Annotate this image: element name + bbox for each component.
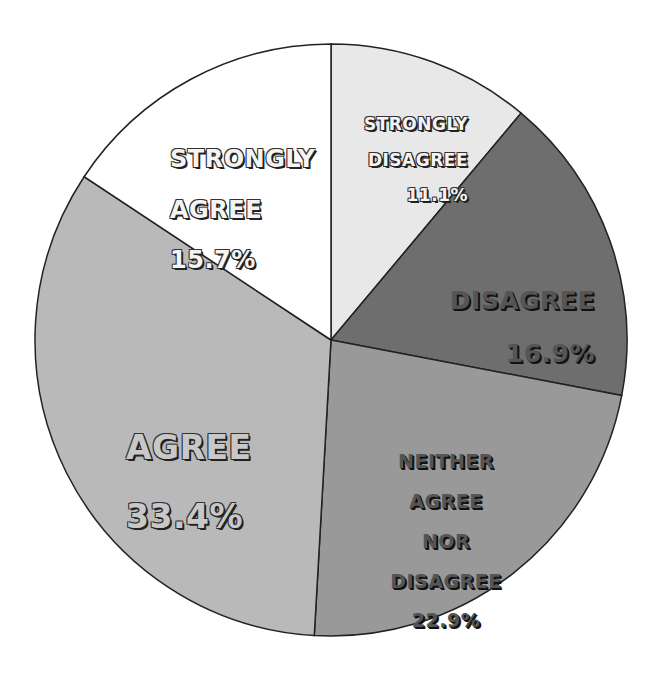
label-text: STRONGLY xyxy=(170,147,315,172)
label-text: DISAGREE xyxy=(346,152,468,170)
label-strongly-agree: STRONGLY AGREE 15.7% xyxy=(170,122,315,298)
label-percent: 16.9% xyxy=(440,341,595,367)
label-percent: 22.9% xyxy=(378,611,514,631)
label-text: NOR xyxy=(378,532,514,552)
label-agree: AGREE 33.4% xyxy=(126,396,252,569)
label-text: AGREE xyxy=(170,198,315,223)
label-percent: 11.1% xyxy=(346,187,468,205)
label-neither: NEITHER AGREE NOR DISAGREE 22.9% xyxy=(378,432,514,651)
label-text: STRONGLY xyxy=(346,116,468,134)
label-text: DISAGREE xyxy=(440,288,595,314)
label-percent: 33.4% xyxy=(126,500,252,535)
label-text: NEITHER xyxy=(378,452,514,472)
label-disagree: DISAGREE 16.9% xyxy=(440,262,595,393)
label-percent: 15.7% xyxy=(170,248,315,273)
label-strongly-disagree: STRONGLY DISAGREE 11.1% xyxy=(346,98,468,223)
label-text: AGREE xyxy=(126,431,252,466)
label-text: DISAGREE xyxy=(378,572,514,592)
label-text: AGREE xyxy=(378,492,514,512)
